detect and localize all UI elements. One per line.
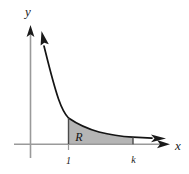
x-tick-label-k: k	[131, 154, 136, 165]
x-tick-label-1: 1	[66, 155, 71, 166]
figure-container: y x 1 k R	[0, 0, 189, 174]
region-label-R: R	[74, 130, 83, 144]
hyperbola-curve	[44, 46, 152, 138]
x-axis-label: x	[174, 138, 181, 153]
y-axis-label: y	[23, 4, 31, 19]
hyperbola-area-figure: y x 1 k R	[0, 0, 189, 174]
curve-upper-arrowhead	[41, 31, 49, 46]
